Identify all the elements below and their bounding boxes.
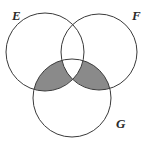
set-label-e: E bbox=[11, 8, 21, 23]
set-label-g: G bbox=[116, 116, 126, 131]
venn-diagram-figure: E F G bbox=[0, 0, 148, 145]
set-label-f: F bbox=[131, 8, 141, 23]
venn-diagram-canvas: E F G bbox=[0, 0, 148, 145]
